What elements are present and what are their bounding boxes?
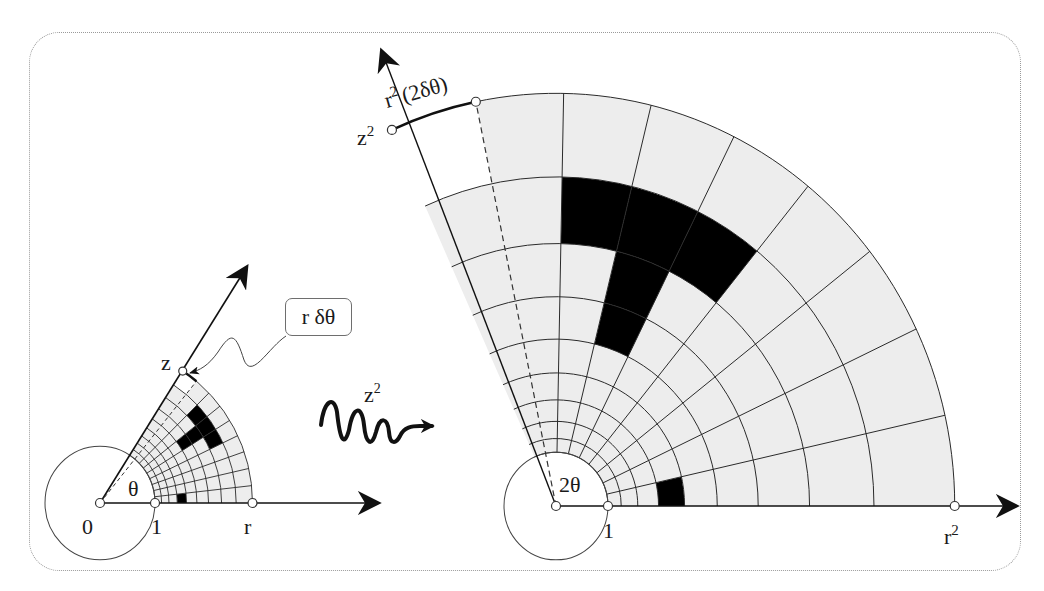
target-label-r-squared: r2 — [944, 522, 959, 549]
target-label-z-squared: z2 — [357, 123, 374, 150]
source-unit-point — [151, 499, 160, 508]
diagram-svg: 0 1 r θ z z2 1 r2 2θ — [0, 0, 1044, 591]
source-z-point — [179, 367, 187, 375]
diagram-canvas: 0 1 r θ z z2 1 r2 2θ — [0, 0, 1044, 591]
target-label-2theta: 2θ — [559, 472, 581, 497]
source-label-angle: θ — [128, 476, 139, 501]
grid-cell — [208, 489, 222, 503]
target-unit-point — [604, 502, 613, 511]
source-label-origin: 0 — [82, 514, 93, 539]
source-label-radius: r — [244, 514, 252, 539]
target-z2-point — [387, 125, 396, 134]
source-radius-point — [248, 499, 257, 508]
grid-cell — [221, 487, 236, 503]
grid-cell — [186, 492, 197, 503]
target-plane-z-squared: 1 r2 2θ z2 r2(2δθ) — [357, 52, 1015, 560]
squiggle-arrow-icon — [321, 402, 432, 442]
callout-r-delta-theta: r δθ — [285, 298, 352, 336]
grid-cell — [169, 494, 178, 503]
mapping-arrow: z2 — [321, 381, 432, 442]
source-label-unit: 1 — [151, 514, 162, 539]
mapping-label: z2 — [364, 381, 381, 407]
grid-cell — [161, 495, 169, 503]
grid-cell — [196, 491, 208, 503]
target-label-unit: 1 — [603, 518, 614, 543]
source-origin-point — [96, 499, 105, 508]
grid-cell-black — [177, 493, 187, 503]
source-label-z: z — [161, 350, 171, 375]
target-origin-point — [552, 502, 561, 511]
target-radius-point — [950, 502, 959, 511]
target-arc-end-point — [471, 97, 480, 106]
callout-leader — [190, 336, 286, 373]
